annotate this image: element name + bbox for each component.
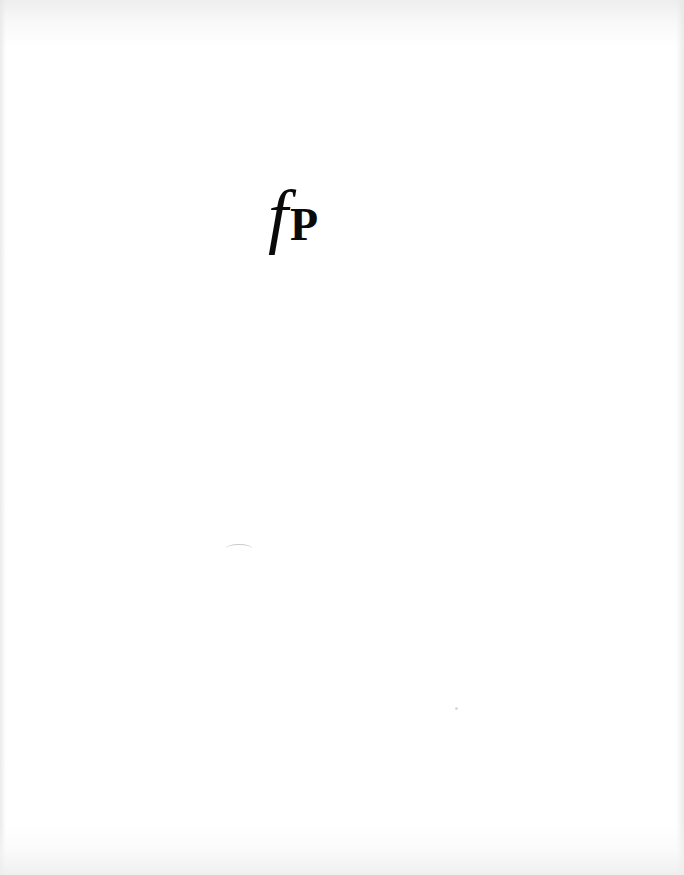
publisher-logo: fP bbox=[268, 176, 318, 256]
logo-italic-f: f bbox=[268, 176, 288, 256]
scan-edge-left bbox=[0, 0, 6, 875]
logo-bold-p: P bbox=[290, 185, 318, 265]
scan-speck bbox=[455, 707, 458, 710]
scan-smudge-mark bbox=[226, 544, 252, 553]
scan-bleed-through-top bbox=[0, 0, 684, 48]
scan-edge-right bbox=[676, 0, 684, 875]
scan-bleed-through-bottom bbox=[0, 825, 684, 875]
document-page: fP bbox=[0, 0, 684, 875]
